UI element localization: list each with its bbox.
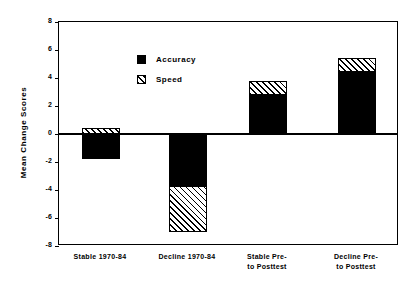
x-axis-label: Decline Pre-to Posttest <box>306 252 406 272</box>
x-axis-label-line2: to Posttest <box>306 262 406 272</box>
bar-segment-speed <box>169 186 207 232</box>
legend-item[interactable]: Speed <box>137 72 196 86</box>
y-tick-mark <box>55 218 59 220</box>
bar-segment-accuracy <box>249 95 287 134</box>
y-tick-label: 2 <box>33 101 52 108</box>
y-tick-label: 0 <box>33 129 52 136</box>
y-tick-mark <box>55 246 59 248</box>
legend: AccuracySpeed <box>137 52 196 92</box>
x-axis-label-line2: to Posttest <box>217 262 317 272</box>
y-tick-label: 4 <box>33 73 52 80</box>
x-axis-label-line1: Decline Pre- <box>306 252 406 262</box>
y-tick-label: 6 <box>33 45 52 52</box>
y-tick-mark <box>55 162 59 164</box>
y-tick-mark <box>55 78 59 80</box>
x-axis-label-line1: Stable 1970-84 <box>50 252 150 262</box>
legend-label: Accuracy <box>156 55 196 64</box>
y-tick-label: -4 <box>33 185 52 192</box>
x-axis-label: Stable 1970-84 <box>50 252 150 262</box>
y-axis-title: Mean Change Scores <box>19 63 28 203</box>
legend-label: Speed <box>156 75 183 84</box>
y-tick-label: -2 <box>33 157 52 164</box>
bar-group <box>249 22 287 244</box>
x-axis-label-line1: Stable Pre- <box>217 252 317 262</box>
y-tick-mark <box>55 50 59 52</box>
bar-segment-speed <box>82 128 120 134</box>
legend-swatch-speed-icon <box>137 75 146 84</box>
bar-segment-accuracy <box>82 134 120 159</box>
legend-swatch-accuracy-icon <box>137 55 146 64</box>
bar-segment-accuracy <box>338 72 376 134</box>
x-axis-label: Stable Pre-to Posttest <box>217 252 317 272</box>
bar-segment-speed <box>338 58 376 72</box>
legend-item[interactable]: Accuracy <box>137 52 196 66</box>
bar-chart: Mean Change Scores 86420-2-4-6-8 Accurac… <box>0 0 411 283</box>
plot-area: 86420-2-4-6-8 AccuracySpeed <box>58 21 398 245</box>
y-tick-label: 8 <box>33 17 52 24</box>
bar-group <box>338 22 376 244</box>
y-tick-label: -6 <box>33 213 52 220</box>
y-tick-mark <box>55 106 59 108</box>
bar-segment-accuracy <box>169 134 207 186</box>
y-tick-mark <box>55 22 59 24</box>
y-tick-mark <box>55 190 59 192</box>
bar-group <box>82 22 120 244</box>
y-tick-label: -8 <box>33 241 52 248</box>
bar-segment-speed <box>249 81 287 95</box>
